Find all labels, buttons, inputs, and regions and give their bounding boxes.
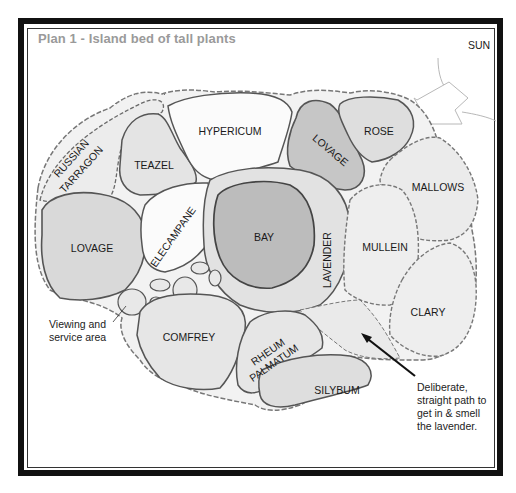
label-rose: ROSE	[364, 125, 394, 137]
label-teazel: TEAZEL	[134, 159, 174, 171]
path-note: Deliberate, straight path to get in & sm…	[417, 381, 486, 433]
viewing-note-line-1: Viewing and	[49, 318, 106, 331]
label-silybum: SILYBUM	[314, 384, 359, 396]
label-bay: BAY	[254, 231, 274, 243]
path-note-line-2: straight path to	[417, 394, 486, 407]
sun-arrow-icon	[414, 58, 496, 124]
path-note-line-1: Deliberate,	[417, 381, 486, 394]
label-mullein: MULLEIN	[362, 241, 408, 253]
label-comfrey: COMFREY	[163, 331, 216, 343]
viewing-note-line-2: service area	[49, 331, 106, 344]
viewing-area-note: Viewing and service area	[49, 318, 106, 344]
label-hypericum: HYPERICUM	[198, 125, 261, 137]
path-note-line-4: the lavender.	[417, 420, 486, 433]
label-lovage-left: LOVAGE	[71, 242, 113, 254]
path-note-line-3: get in & smell	[417, 407, 486, 420]
label-mallows: MALLOWS	[412, 181, 465, 193]
sun-label: SUN	[468, 39, 490, 51]
label-clary: CLARY	[411, 306, 446, 318]
label-lavender: LAVENDER	[321, 232, 333, 288]
